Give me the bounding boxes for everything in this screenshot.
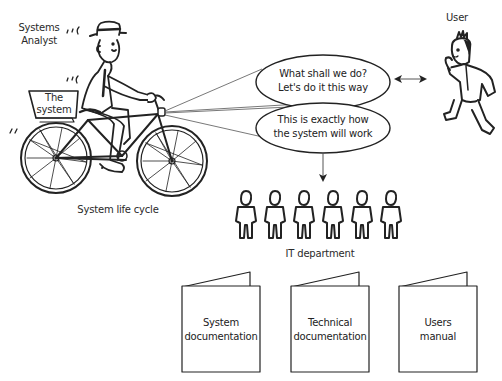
speech-bubble-1-line1: What shall we do?	[262, 67, 384, 81]
speech-bubble-1-text: What shall we do? Let's do it this way	[262, 67, 384, 95]
person-icon	[352, 191, 372, 238]
system-life-cycle-caption: System life cycle	[60, 203, 176, 216]
person-icon	[323, 191, 343, 238]
speech-bubble-2-line1: This is exactly how	[262, 113, 384, 127]
person-icon	[294, 191, 314, 238]
basket-label: The system	[32, 92, 76, 116]
systems-analyst-label: Systems Analyst	[10, 21, 68, 47]
user-label: User	[440, 11, 474, 24]
systems-analyst-label-line2: Analyst	[10, 34, 68, 47]
basket-label-line1: The	[32, 92, 76, 104]
user-figure	[444, 31, 495, 134]
document-technical-documentation: Technical documentation	[291, 316, 369, 344]
document-1-line2: documentation	[182, 330, 260, 344]
person-icon	[381, 191, 401, 238]
document-2-line1: Technical	[291, 316, 369, 330]
person-icon	[236, 191, 256, 238]
rider-figure	[82, 22, 156, 172]
document-1-line1: System	[182, 316, 260, 330]
systems-analyst-label-line1: Systems	[10, 21, 68, 34]
it-department-label: IT department	[270, 247, 370, 260]
speech-bubble-2-text: This is exactly how the system will work	[262, 113, 384, 141]
basket-label-line2: system	[32, 104, 76, 116]
speech-bubble-2-line2: the system will work	[262, 127, 384, 141]
speech-bubble-1-line2: Let's do it this way	[262, 81, 384, 95]
document-3-line1: Users	[399, 316, 477, 330]
document-system-documentation: System documentation	[182, 316, 260, 344]
document-users-manual: Users manual	[399, 316, 477, 344]
it-department-people	[236, 191, 401, 238]
document-2-line2: documentation	[291, 330, 369, 344]
document-3-line2: manual	[399, 330, 477, 344]
headlamp-icon	[158, 108, 165, 116]
person-icon	[265, 191, 285, 238]
